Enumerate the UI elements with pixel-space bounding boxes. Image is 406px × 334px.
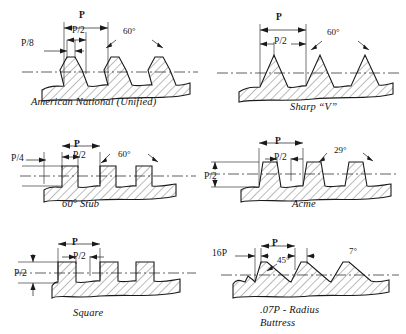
label-pitch-p: P — [74, 139, 80, 149]
dimension-pitch — [261, 243, 295, 248]
panel-sixty-degree-stub — [0, 138, 200, 216]
caption-acme: Acme — [292, 198, 316, 210]
dimension-pitch — [64, 25, 108, 30]
label-flank-angle-29: 29° — [334, 145, 347, 155]
label-crest-flat-p8: P/8 — [21, 38, 34, 48]
caption-square: Square — [73, 307, 103, 319]
panel-sharp-v — [203, 14, 403, 104]
label-thread-depth-p2: P/2 — [14, 268, 27, 278]
angle-thread-angle-leaders — [311, 41, 369, 50]
angle-thread-angle-leaders — [106, 40, 163, 48]
caption-sharp-v: Sharp “V” — [290, 101, 337, 113]
label-thread-depth-p2: P/2 — [204, 171, 217, 181]
label-thread-angle-60: 60° — [327, 27, 340, 37]
label-thread-depth-p4: P/4 — [11, 153, 24, 163]
label-crest-flat-16p: 16P — [212, 248, 227, 258]
dimension-thread-depth — [22, 157, 62, 186]
dimension-half-pitch — [67, 37, 86, 42]
label-half-pitch-p2: P/2 — [73, 150, 86, 160]
dimension-pitch — [260, 27, 306, 32]
dimension-crest-flat — [235, 253, 269, 258]
thread-profile-body — [239, 55, 393, 102]
label-pitch-p: P — [276, 12, 282, 22]
label-thread-angle-60: 60° — [118, 149, 131, 159]
panel-american-national-unified — [0, 14, 200, 104]
thread-profile-body — [233, 262, 389, 298]
thread-profile-body — [44, 166, 176, 202]
label-pressure-flank-angle-45: 45° — [277, 255, 290, 265]
label-pitch-p: P — [272, 238, 278, 248]
thread-forms-figure: P/8 P P/2 60° American National (Unified… — [0, 0, 406, 334]
caption-american-national-unified: American National (Unified) — [31, 96, 156, 108]
dimension-thread-depth — [211, 162, 259, 187]
caption-buttress-line-2: Buttress — [260, 317, 295, 329]
dimension-pitch — [259, 140, 303, 145]
label-half-pitch-p2: P/2 — [274, 36, 287, 46]
label-thread-angle-60: 60° — [123, 26, 136, 36]
label-pitch-p: P — [72, 237, 78, 247]
dimension-pitch — [62, 143, 100, 148]
thread-profile-body — [241, 162, 391, 202]
label-pitch-p: P — [275, 136, 281, 146]
angle-clearance-flank-leaders — [287, 253, 315, 258]
caption-sixty-degree-stub: 60° Stub — [62, 198, 99, 210]
dimension-pitch — [58, 241, 100, 246]
label-half-pitch-p2: P/2 — [72, 25, 85, 35]
label-clearance-flank-angle-7: 7° — [349, 246, 357, 256]
caption-buttress-line-1: .07P - Radius — [260, 304, 319, 316]
label-half-pitch-p2: P/2 — [274, 152, 287, 162]
label-half-pitch-p2: P/2 — [73, 251, 86, 261]
label-pitch-p: P — [79, 10, 85, 20]
thread-profile-body — [52, 262, 180, 298]
